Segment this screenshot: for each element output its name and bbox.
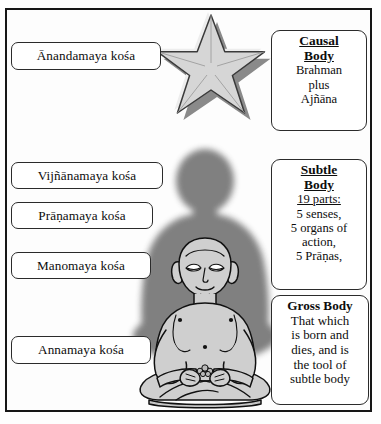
gross-body-line-4: the tool of xyxy=(294,358,347,373)
kosa-label-text: Vijñānamaya kośa xyxy=(38,169,137,183)
subtle-body-subtitle: 19 parts: xyxy=(297,192,341,206)
subtle-body-title-line1: Subtle xyxy=(301,163,337,178)
gross-body-title: Gross Body xyxy=(287,299,352,314)
subtle-body-box[interactable]: Subtle Body 19 parts: 5 senses, 5 organs… xyxy=(271,159,367,290)
kosa-label-text: Manomaya kośa xyxy=(37,259,125,273)
kosa-label-text: Prāṇamaya kośa xyxy=(38,209,125,223)
kosa-label-text: Ānandamaya kośa xyxy=(37,49,136,63)
kosa-label-text: Annamaya kośa xyxy=(38,343,124,357)
causal-body-title-line2: Body xyxy=(304,49,334,64)
subtle-body-line-2: 5 organs of xyxy=(291,221,347,235)
causal-body-title-line1: Causal xyxy=(299,34,338,49)
gross-body-line-3: dies, and is xyxy=(291,343,349,358)
gross-body-box[interactable]: Gross Body That which is born and dies, … xyxy=(271,295,369,405)
kosa-label-pranamaya[interactable]: Prāṇamaya kośa xyxy=(11,202,153,229)
subtle-body-line-4: 5 Prāṇas, xyxy=(296,249,342,263)
kosa-label-anandamaya[interactable]: Ānandamaya kośa xyxy=(11,42,161,70)
kosa-label-vijnanamaya[interactable]: Vijñānamaya kośa xyxy=(11,162,163,189)
kosa-label-manomaya[interactable]: Manomaya kośa xyxy=(11,252,151,279)
causal-body-line-1: Brahman xyxy=(296,63,342,77)
subtle-body-line-3: action, xyxy=(302,235,336,249)
kosa-diagram: Ānandamaya kośa Vijñānamaya kośa Prāṇama… xyxy=(0,0,381,424)
kosa-label-annamaya[interactable]: Annamaya kośa xyxy=(11,336,151,364)
causal-body-line-2: plus xyxy=(309,78,330,92)
gross-body-line-2: is born and xyxy=(291,328,348,343)
causal-body-line-3: Ajñāna xyxy=(301,92,337,106)
subtle-body-line-1: 5 senses, xyxy=(297,207,342,221)
subtle-body-title-line2: Body xyxy=(304,178,334,193)
gross-body-line-1: That which xyxy=(291,314,349,329)
gross-body-line-5: subtle body xyxy=(290,372,350,387)
causal-body-box[interactable]: Causal Body Brahman plus Ajñāna xyxy=(271,30,367,131)
